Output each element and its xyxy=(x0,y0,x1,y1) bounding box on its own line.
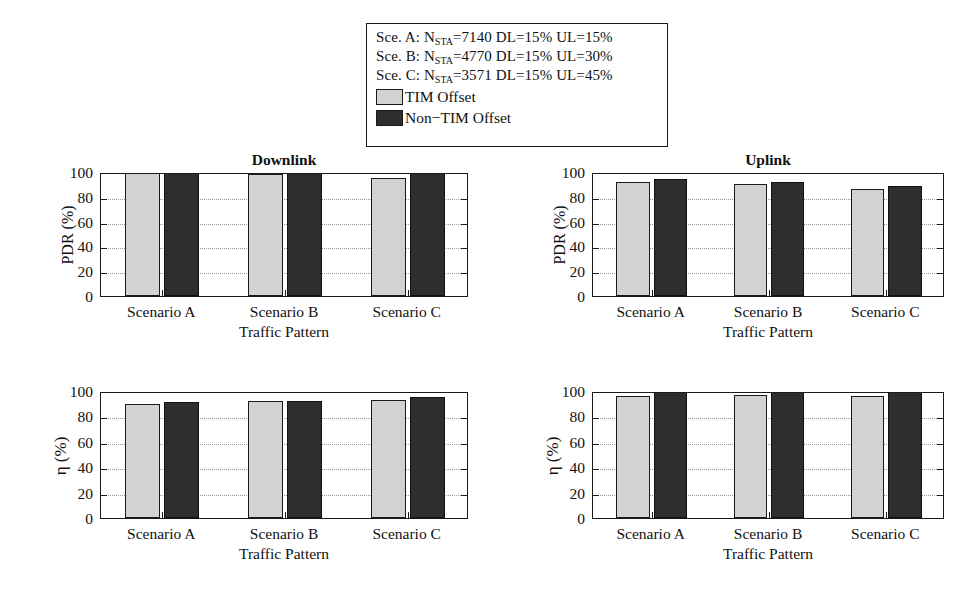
ytick-label-downlink-pdr-40: 40 xyxy=(78,238,94,256)
xtick-mark-1 xyxy=(162,512,163,518)
ytick-mark-right-60 xyxy=(937,224,943,225)
ytick-label-uplink-eta-80: 80 xyxy=(570,408,586,426)
xtick-mark-3 xyxy=(886,512,887,518)
bar-downlink-pdr-1-tim-offset xyxy=(125,173,160,296)
ytick-mark-left-80 xyxy=(101,418,107,419)
bar-uplink-pdr-2-non-tim-offset xyxy=(771,182,804,296)
ytick-label-uplink-eta-60: 60 xyxy=(570,434,586,452)
chart-title-uplink-pdr: Uplink xyxy=(592,151,944,169)
ytick-label-uplink-eta-20: 20 xyxy=(570,485,586,503)
ytick-mark-left-40 xyxy=(101,469,107,470)
ytick-mark-right-20 xyxy=(461,273,467,274)
ytick-mark-left-80 xyxy=(101,199,107,200)
bar-downlink-pdr-2-tim-offset xyxy=(248,174,283,296)
bar-uplink-pdr-2-tim-offset xyxy=(734,184,767,296)
ytick-label-uplink-pdr-100: 100 xyxy=(562,164,585,182)
legend-scenario-c-subscript: STA xyxy=(435,74,453,85)
ytick-label-uplink-pdr-80: 80 xyxy=(570,189,586,207)
xtick-label-uplink-eta-2: Scenario B xyxy=(734,525,802,543)
ytick-mark-right-40 xyxy=(461,469,467,470)
ytick-mark-right-60 xyxy=(461,444,467,445)
bar-uplink-pdr-1-non-tim-offset xyxy=(654,179,687,296)
xtick-label-downlink-pdr-1: Scenario A xyxy=(127,303,195,321)
ytick-mark-left-20 xyxy=(101,495,107,496)
ytick-label-downlink-eta-80: 80 xyxy=(78,408,94,426)
legend-scenario-b-prefix: Sce. B: N xyxy=(376,48,435,64)
ytick-mark-left-60 xyxy=(101,224,107,225)
ytick-label-uplink-eta-0: 0 xyxy=(577,510,585,528)
xtick-label-downlink-eta-2: Scenario B xyxy=(250,525,318,543)
bar-uplink-pdr-3-tim-offset xyxy=(851,189,884,296)
xtick-mark-2 xyxy=(285,512,286,518)
legend-swatch-tim-offset xyxy=(376,89,403,105)
ytick-mark-left-60 xyxy=(593,224,599,225)
ytick-label-downlink-pdr-100: 100 xyxy=(70,164,93,182)
ytick-mark-right-80 xyxy=(937,199,943,200)
ytick-label-downlink-pdr-80: 80 xyxy=(78,189,94,207)
chart-panel-downlink-eta: 020406080100η (%)Scenario AScenario BSce… xyxy=(100,392,468,519)
legend-label-tim-offset: TIM Offset xyxy=(405,88,476,106)
xtick-mark-2 xyxy=(769,290,770,296)
ytick-mark-right-80 xyxy=(937,418,943,419)
legend-scenario-a: Sce. A: NSTA=7140 DL=15% UL=15% xyxy=(376,28,667,47)
xtick-mark-1 xyxy=(652,512,653,518)
ytick-mark-left-20 xyxy=(593,495,599,496)
legend-scenario-c-rest: =3571 DL=15% UL=45% xyxy=(453,67,613,83)
bar-uplink-pdr-3-non-tim-offset xyxy=(888,186,921,296)
y-axis-label-downlink-pdr: PDR (%) xyxy=(59,205,77,264)
ytick-label-uplink-pdr-20: 20 xyxy=(570,263,586,281)
xtick-label-uplink-pdr-1: Scenario A xyxy=(616,303,684,321)
xtick-label-downlink-eta-3: Scenario C xyxy=(372,525,440,543)
ytick-mark-left-60 xyxy=(593,444,599,445)
ytick-mark-right-40 xyxy=(937,469,943,470)
legend-key-non-tim-offset: Non−TIM Offset xyxy=(376,108,667,127)
ytick-label-downlink-eta-20: 20 xyxy=(78,485,94,503)
xtick-mark-3 xyxy=(408,290,409,296)
xtick-mark-3 xyxy=(886,290,887,296)
xtick-mark-2 xyxy=(285,290,286,296)
ytick-mark-left-80 xyxy=(593,418,599,419)
ytick-mark-right-60 xyxy=(937,444,943,445)
ytick-mark-right-80 xyxy=(461,199,467,200)
bar-downlink-eta-2-non-tim-offset xyxy=(287,401,322,518)
x-axis-label-uplink-pdr: Traffic Pattern xyxy=(592,323,944,341)
legend-scenario-b: Sce. B: NSTA=4770 DL=15% UL=30% xyxy=(376,47,667,66)
y-axis-label-uplink-eta: η (%) xyxy=(543,436,563,475)
xtick-label-uplink-pdr-3: Scenario C xyxy=(851,303,919,321)
bar-uplink-eta-1-tim-offset xyxy=(616,396,649,518)
ytick-mark-right-20 xyxy=(461,495,467,496)
legend-key-tim-offset: TIM Offset xyxy=(376,87,667,106)
xtick-label-uplink-pdr-2: Scenario B xyxy=(734,303,802,321)
xtick-label-uplink-eta-1: Scenario A xyxy=(616,525,684,543)
y-axis-label-uplink-pdr: PDR (%) xyxy=(551,205,569,264)
bar-uplink-eta-3-tim-offset xyxy=(851,396,884,518)
legend-label-non-tim-offset: Non−TIM Offset xyxy=(405,109,511,127)
ytick-mark-right-20 xyxy=(937,273,943,274)
legend-box: Sce. A: NSTA=7140 DL=15% UL=15% Sce. B: … xyxy=(366,23,668,147)
plot-area-uplink-pdr xyxy=(592,173,944,297)
ytick-label-downlink-pdr-60: 60 xyxy=(78,214,94,232)
ytick-label-downlink-eta-40: 40 xyxy=(78,459,94,477)
chart-panel-downlink-pdr: Downlink020406080100PDR (%)Scenario ASce… xyxy=(100,173,468,297)
ytick-mark-left-40 xyxy=(593,469,599,470)
ytick-mark-left-80 xyxy=(593,199,599,200)
legend-scenario-b-subscript: STA xyxy=(435,55,453,66)
xtick-label-downlink-eta-1: Scenario A xyxy=(127,525,195,543)
bar-uplink-eta-2-non-tim-offset xyxy=(771,392,804,518)
bar-uplink-eta-1-non-tim-offset xyxy=(654,392,687,518)
figure-canvas: Sce. A: NSTA=7140 DL=15% UL=15% Sce. B: … xyxy=(0,0,965,610)
bar-uplink-eta-2-tim-offset xyxy=(734,395,767,518)
ytick-label-uplink-pdr-40: 40 xyxy=(570,238,586,256)
legend-swatch-non-tim-offset xyxy=(376,110,403,126)
bar-downlink-eta-1-tim-offset xyxy=(125,404,160,518)
bar-downlink-pdr-3-tim-offset xyxy=(371,178,406,296)
y-axis-label-downlink-eta: η (%) xyxy=(51,436,71,475)
ytick-mark-left-40 xyxy=(101,248,107,249)
legend-scenario-a-rest: =7140 DL=15% UL=15% xyxy=(453,29,613,45)
xtick-mark-3 xyxy=(408,512,409,518)
legend-scenario-c-prefix: Sce. C: N xyxy=(376,67,435,83)
legend-scenario-b-rest: =4770 DL=15% UL=30% xyxy=(453,48,613,64)
bar-downlink-pdr-3-non-tim-offset xyxy=(410,173,445,296)
ytick-mark-left-40 xyxy=(593,248,599,249)
bar-uplink-pdr-1-tim-offset xyxy=(616,182,649,296)
